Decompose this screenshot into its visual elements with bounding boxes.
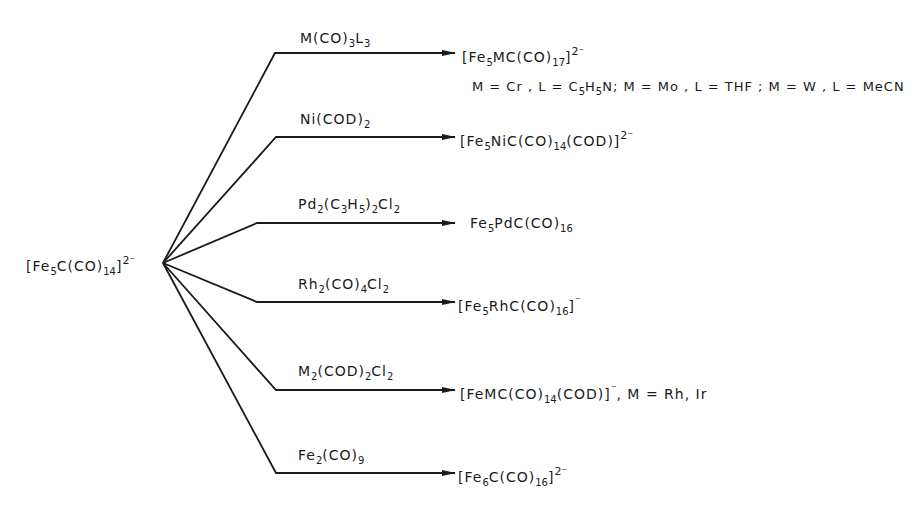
branch-arrow-1 [163, 53, 455, 263]
product-label-2: [Fe5NiC(CO)14(COD)]2⁻ [460, 130, 633, 152]
reagent-label-2: Ni(COD)2 [300, 112, 370, 130]
reagent-label-4: Rh2(CO)4Cl2 [298, 277, 389, 295]
product-label-1: [Fe5MC(CO)17]2⁻ [462, 46, 584, 68]
product-label-6: [Fe6C(CO)16]2⁻ [458, 466, 567, 488]
reagent-label-3: Pd2(C3H5)2Cl2 [298, 197, 400, 215]
branch-arrow-3 [163, 223, 455, 263]
reagent-label-1: M(CO)3L3 [300, 31, 370, 49]
reactant-formula: [Fe5C(CO)14]2⁻ [26, 255, 135, 277]
reagent-label-6: Fe2(CO)9 [298, 448, 364, 466]
product-label-4: [Fe5RhC(CO)16]⁻ [458, 295, 581, 317]
reaction-arrows [0, 0, 922, 519]
reagent-label-5: M2(COD)2Cl2 [298, 364, 393, 382]
product-label-3: Fe5PdC(CO)16 [470, 216, 573, 234]
product-note-1: M = Cr , L = C5H5N; M = Mo , L = THF ; M… [472, 80, 905, 97]
product-label-5: [FeMC(CO)14(COD)]⁻, M = Rh, Ir [460, 383, 707, 405]
